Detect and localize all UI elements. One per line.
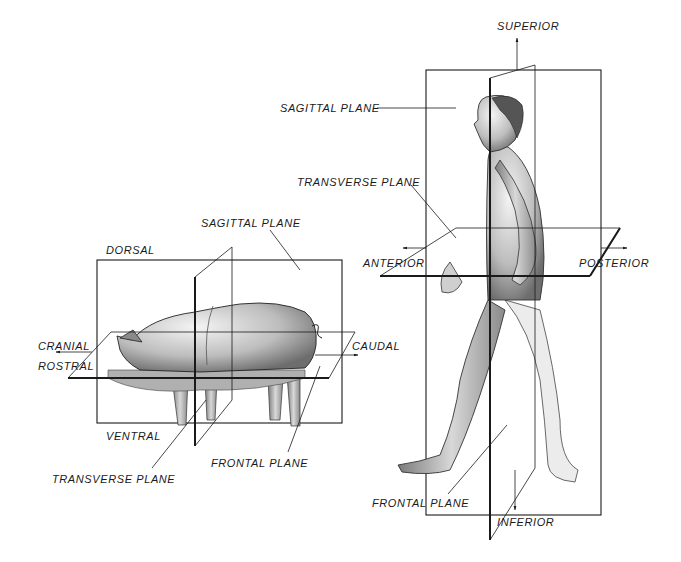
pig-frontal-plane-label: FRONTAL PLANE	[211, 457, 308, 469]
superior-label: SUPERIOR	[497, 20, 559, 32]
human-transverse-plane-label: TRANSVERSE PLANE	[297, 176, 420, 188]
pig-diagram: SAGITTAL PLANE DORSAL CRANIAL ROSTRAL CA…	[38, 217, 400, 485]
dorsal-label: DORSAL	[106, 244, 155, 256]
ventral-label: VENTRAL	[106, 430, 161, 442]
pig-transverse-plane-label: TRANSVERSE PLANE	[52, 473, 175, 485]
anterior-label: ANTERIOR	[362, 257, 425, 269]
pig-illustration	[108, 303, 322, 426]
pig-sagittal-plane-label: SAGITTAL PLANE	[201, 217, 301, 229]
cranial-label: CRANIAL	[38, 340, 90, 352]
pig-sagittal-leader	[270, 230, 300, 270]
inferior-label: INFERIOR	[497, 516, 554, 528]
posterior-label: POSTERIOR	[579, 257, 649, 269]
anatomical-planes-diagram: SAGITTAL PLANE DORSAL CRANIAL ROSTRAL CA…	[0, 0, 681, 562]
human-illustration	[398, 95, 578, 482]
human-sagittal-plane-label: SAGITTAL PLANE	[280, 102, 380, 114]
human-transverse-leader	[411, 185, 456, 238]
human-frontal-plane-label: FRONTAL PLANE	[372, 497, 469, 509]
rostral-label: ROSTRAL	[38, 360, 94, 372]
human-diagram: SUPERIOR SAGITTAL PLANE TRANSVERSE PLANE…	[280, 20, 649, 540]
caudal-label: CAUDAL	[352, 340, 400, 352]
